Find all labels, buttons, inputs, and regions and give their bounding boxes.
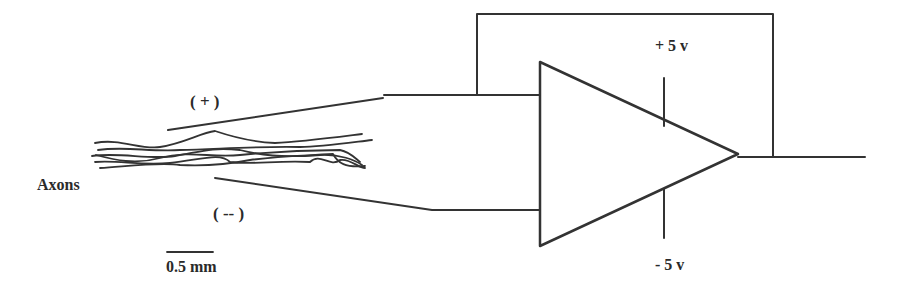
plus-electrode-label: ( + ) — [190, 92, 220, 112]
negative-electrode — [215, 178, 540, 210]
axon-bundle — [92, 131, 372, 168]
scale-bar-label: 0.5 mm — [166, 258, 217, 276]
minus-electrode-label: ( -- ) — [213, 204, 244, 224]
pos-supply-label: + 5 v — [655, 37, 688, 55]
op-amp-triangle — [540, 62, 738, 246]
feedback-loop — [477, 14, 773, 157]
amplifier-diagram — [0, 0, 902, 288]
neg-supply-label: - 5 v — [655, 256, 684, 274]
axons-label: Axons — [37, 176, 80, 194]
